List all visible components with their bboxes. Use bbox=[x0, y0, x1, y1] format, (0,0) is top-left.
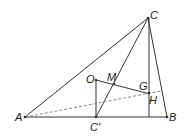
point-C-prime bbox=[95, 116, 98, 119]
label-B: B bbox=[169, 111, 176, 123]
label-A: A bbox=[14, 111, 22, 123]
label-M: M bbox=[107, 71, 117, 83]
point-A bbox=[24, 116, 27, 119]
label-C-prime: C' bbox=[90, 121, 101, 133]
point-B bbox=[166, 116, 169, 119]
label-C: C bbox=[150, 9, 158, 21]
side-AC bbox=[25, 18, 148, 117]
dashed-line-A bbox=[25, 91, 161, 117]
point-M bbox=[113, 83, 116, 86]
point-O bbox=[95, 79, 98, 82]
label-G: G bbox=[139, 80, 148, 92]
label-H: H bbox=[149, 94, 157, 106]
geometry-diagram: A B C C' O M G H bbox=[0, 0, 189, 139]
label-O: O bbox=[86, 73, 95, 85]
point-C bbox=[147, 17, 150, 20]
